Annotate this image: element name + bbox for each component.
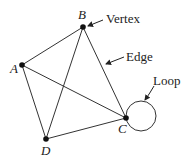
edge-b-d: [46, 27, 83, 139]
vertex-a: [19, 62, 25, 68]
loop-annotation: Loop: [153, 73, 180, 88]
vertex-b: [80, 24, 86, 30]
vertex-label-b: B: [78, 7, 86, 22]
loop-c: [126, 101, 156, 131]
vertex-label-d: D: [40, 143, 51, 158]
vertex-d: [43, 136, 49, 142]
edge-a-b: [22, 27, 83, 65]
edge-annotation: Edge: [126, 49, 153, 64]
edge-pointer-arrow: [106, 57, 124, 64]
loop-pointer-arrow: [145, 86, 154, 100]
vertex-label-a: A: [9, 61, 18, 76]
edge-a-c: [22, 65, 126, 118]
graph-diagram: A B C D Vertex Edge Loop: [0, 0, 188, 163]
vertex-annotation: Vertex: [106, 11, 140, 26]
vertex-c: [123, 115, 129, 121]
edge-d-c: [46, 118, 126, 139]
vertex-pointer-arrow: [88, 20, 103, 26]
edge-b-c: [83, 27, 126, 118]
edge-a-d: [22, 65, 46, 139]
vertex-label-c: C: [118, 121, 127, 136]
